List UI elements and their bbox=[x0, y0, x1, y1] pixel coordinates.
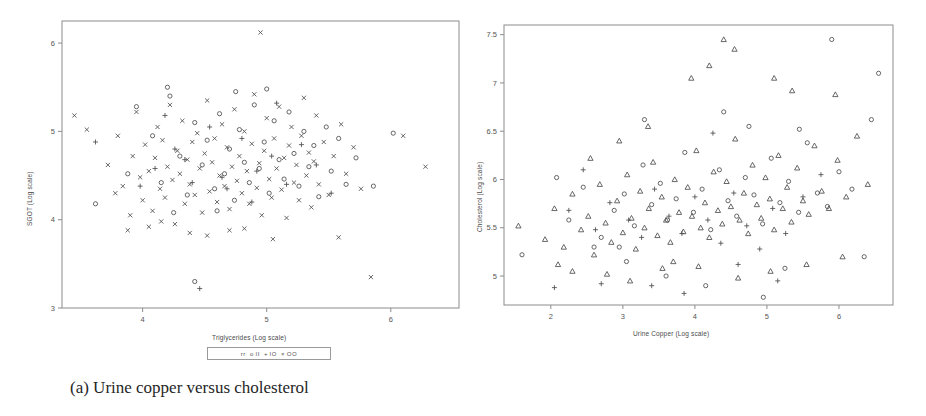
cross-marker-icon: × bbox=[281, 351, 285, 357]
svg-text:6: 6 bbox=[51, 39, 55, 48]
svg-text:6.5: 6.5 bbox=[487, 127, 497, 136]
legend-a: rr o II + IO × OO bbox=[207, 347, 331, 360]
svg-text:5: 5 bbox=[265, 315, 269, 324]
legend-a-entry-1-label: IO bbox=[270, 351, 278, 357]
scatter-plot-b: 2345655.566.577.5 bbox=[463, 0, 926, 370]
svg-text:5: 5 bbox=[493, 272, 497, 281]
panel-a-scatter: 4563456 SGOT (Log scale) Triglycerides (… bbox=[0, 0, 463, 416]
svg-text:5: 5 bbox=[765, 312, 769, 321]
svg-text:3: 3 bbox=[51, 304, 55, 313]
svg-text:7.5: 7.5 bbox=[487, 30, 497, 39]
svg-text:6: 6 bbox=[389, 315, 393, 324]
legend-a-entry-0: o II bbox=[250, 351, 260, 357]
plus-marker-icon: + bbox=[264, 351, 268, 357]
svg-text:5: 5 bbox=[51, 127, 55, 136]
legend-a-entry-1: + IO bbox=[264, 351, 277, 357]
scatter-plot-a: 4563456 bbox=[0, 0, 463, 370]
legend-a-entry-2-label: OO bbox=[287, 351, 298, 357]
x-axis-label-a: Triglycerides (Log scale) bbox=[212, 334, 286, 341]
svg-text:3: 3 bbox=[621, 312, 625, 321]
svg-text:7: 7 bbox=[493, 79, 497, 88]
svg-text:4: 4 bbox=[141, 315, 145, 324]
circle-marker-icon: o bbox=[250, 351, 254, 357]
svg-text:4: 4 bbox=[51, 215, 55, 224]
svg-text:6: 6 bbox=[837, 312, 841, 321]
svg-text:6: 6 bbox=[493, 175, 497, 184]
svg-text:5.5: 5.5 bbox=[487, 223, 497, 232]
y-axis-label-a: SGOT (Log scale) bbox=[26, 171, 33, 226]
y-axis-label-b: Cholesterol (Log scale) bbox=[476, 162, 483, 232]
legend-a-entry-0-label: II bbox=[255, 351, 260, 357]
svg-text:4: 4 bbox=[693, 312, 697, 321]
svg-text:2: 2 bbox=[549, 312, 553, 321]
caption-a: (a) Urine copper versus cholesterol bbox=[70, 378, 309, 398]
legend-a-title: rr bbox=[241, 351, 246, 357]
x-axis-label-b: Urine Copper (Log scale) bbox=[633, 330, 709, 337]
legend-a-entry-2: × OO bbox=[281, 351, 297, 357]
panel-b-scatter: 2345655.566.577.5 Cholesterol (Log scale… bbox=[463, 0, 926, 416]
figure-two-panel-scatter: 4563456 SGOT (Log scale) Triglycerides (… bbox=[0, 0, 926, 416]
